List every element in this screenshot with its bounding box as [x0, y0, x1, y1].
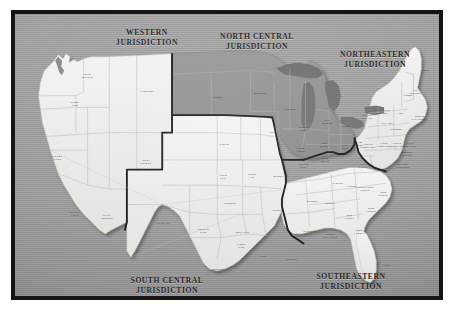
lake-ontario: [364, 105, 384, 115]
map-figure: Pacific NorthwestOregon- IdahoYellowston…: [0, 0, 454, 314]
landmass-group: [15, 14, 427, 282]
map-frame: Pacific NorthwestOregon- IdahoYellowston…: [11, 10, 443, 300]
us-jurisdiction-map: [15, 14, 439, 296]
